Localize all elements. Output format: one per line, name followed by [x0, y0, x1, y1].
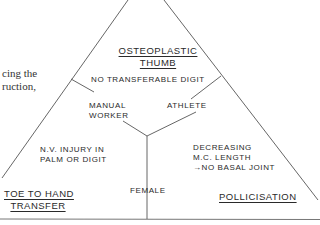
manual-worker-line-1: MANUAL [89, 101, 129, 111]
diagram-canvas: cing the ruction, OSTEOPLASTIC THUMB NO … [0, 0, 320, 225]
y-arm-right [147, 112, 196, 136]
decreasing-mc-length-condition: DECREASING M.C. LENGTH →NO BASAL JOINT [193, 143, 275, 173]
pollicisation-title: POLLICISATION [219, 191, 297, 203]
female-label: FEMALE [130, 186, 166, 196]
athlete-label: ATHLETE [167, 101, 207, 111]
osteoplastic-title-line-2: THUMB [108, 57, 208, 69]
osteoplastic-title-line-1: OSTEOPLASTIC [108, 45, 208, 57]
manual-worker-line-2: WORKER [89, 111, 129, 121]
toe-to-hand-transfer-title: TOE TO HAND TRANSFER [4, 188, 72, 212]
baseline [0, 219, 320, 220]
toe-to-hand-line-1: TOE TO HAND [4, 188, 72, 200]
toe-to-hand-line-2: TRANSFER [4, 200, 72, 212]
nv-injury-condition: N.V. INJURY IN PALM OR DIGIT [40, 145, 107, 165]
body-text-line-2: ruction, [2, 80, 37, 93]
decreasing-line-2: M.C. LENGTH [193, 153, 275, 163]
decreasing-line-3: →NO BASAL JOINT [193, 163, 275, 173]
body-text-line-1: cing the [2, 67, 37, 80]
decreasing-line-1: DECREASING [193, 143, 275, 153]
osteoplastic-thumb-title: OSTEOPLASTIC THUMB [108, 45, 208, 69]
body-text-fragment: cing the ruction, [2, 67, 37, 93]
y-arm-left [123, 121, 147, 136]
nv-injury-line-1: N.V. INJURY IN [40, 145, 107, 155]
nv-injury-line-2: PALM OR DIGIT [40, 155, 107, 165]
no-transferable-digit-label: NO TRANSFERABLE DIGIT [91, 75, 205, 85]
manual-worker-label: MANUAL WORKER [89, 101, 129, 121]
